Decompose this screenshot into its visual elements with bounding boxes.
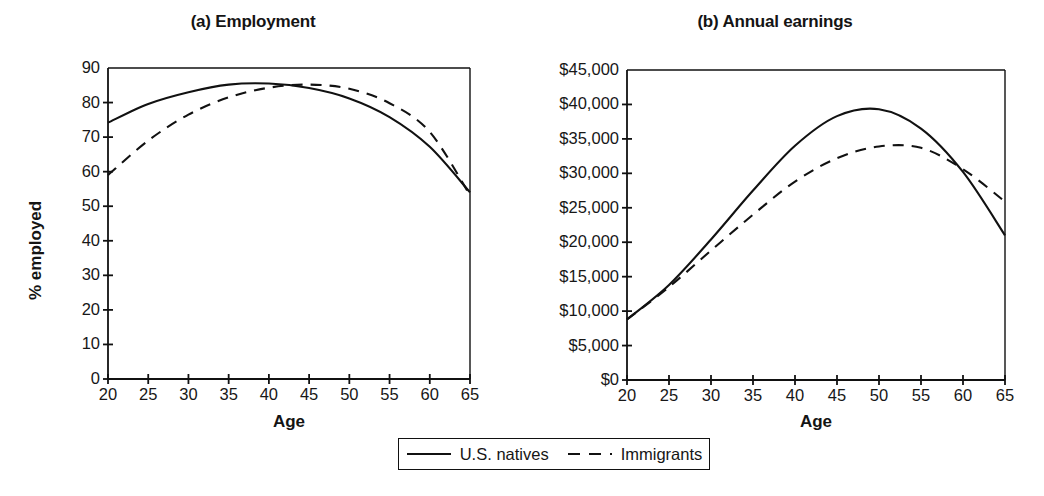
y-tick-label: $25,000: [559, 199, 619, 216]
y-tick-label: 30: [82, 266, 100, 283]
x-tick-label: 50: [855, 387, 903, 404]
y-tick-label: 70: [82, 128, 100, 145]
y-tick-label: $0: [601, 371, 619, 388]
y-tick-label: $10,000: [559, 302, 619, 319]
panel-a-x-axis-title: Age: [108, 412, 470, 432]
y-tick-label: $30,000: [559, 164, 619, 181]
x-tick-label: 45: [813, 387, 861, 404]
y-tick-label: 80: [82, 94, 100, 111]
y-tick-label: $35,000: [559, 130, 619, 147]
chart-legend: U.S. natives Immigrants: [398, 438, 710, 470]
chart-panel-employment: (a) Employment Age % employed 0102030405…: [0, 0, 520, 440]
y-tick-label: $5,000: [569, 337, 619, 354]
y-tick-label: 50: [82, 197, 100, 214]
y-tick-label: $20,000: [559, 233, 619, 250]
panel-a-y-axis-title: % employed: [26, 201, 46, 300]
y-tick-label: $40,000: [559, 95, 619, 112]
y-tick-label: 20: [82, 301, 100, 318]
x-tick-label: 35: [729, 387, 777, 404]
series-line-immigrants: [108, 85, 470, 196]
legend-entry-immigrants: Immigrants: [567, 446, 703, 463]
x-tick-label: 55: [897, 387, 945, 404]
solid-line-swatch: [406, 449, 452, 459]
y-tick-label: $45,000: [559, 61, 619, 78]
x-tick-label: 40: [771, 387, 819, 404]
panel-a-plot-area: [0, 0, 520, 440]
y-tick-label: 10: [82, 335, 100, 352]
series-line-immigrants: [627, 145, 1005, 319]
y-tick-label: 90: [82, 59, 100, 76]
x-tick-label: 65: [446, 386, 494, 403]
figure-container: (a) Employment Age % employed 0102030405…: [0, 0, 1044, 496]
y-tick-label: 40: [82, 232, 100, 249]
legend-entry-us-natives: U.S. natives: [406, 446, 549, 463]
legend-label-us-natives: U.S. natives: [460, 446, 549, 463]
chart-panel-annual-earnings: (b) Annual earnings Age Average annual e…: [520, 0, 1044, 440]
y-tick-label: 60: [82, 163, 100, 180]
series-line-u-s-natives: [108, 83, 470, 192]
series-line-u-s-natives: [627, 109, 1005, 320]
panel-b-x-axis-title: Age: [627, 412, 1005, 432]
dashed-line-swatch: [567, 449, 613, 459]
x-tick-label: 60: [939, 387, 987, 404]
x-tick-label: 65: [981, 387, 1029, 404]
legend-label-immigrants: Immigrants: [621, 446, 703, 463]
y-tick-label: $15,000: [559, 268, 619, 285]
x-tick-label: 20: [603, 387, 651, 404]
x-tick-label: 25: [645, 387, 693, 404]
x-tick-label: 30: [687, 387, 735, 404]
